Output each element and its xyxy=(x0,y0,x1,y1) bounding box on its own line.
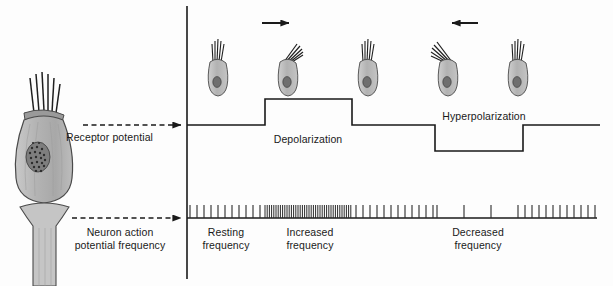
receptor-potential-trace xyxy=(187,99,600,151)
stereocilia xyxy=(362,39,374,62)
nucleus xyxy=(443,77,451,88)
afferent-fiber xyxy=(20,203,69,286)
increased-frequency-label-line1: Increased xyxy=(286,226,333,238)
resting-frequency-label-line1: Resting xyxy=(208,226,244,238)
resting-frequency-label-line2: frequency xyxy=(202,239,249,251)
hyperpolarization-label: Hyperpolarization xyxy=(442,110,525,122)
hair-cell-icon-4 xyxy=(431,42,458,96)
decreased-frequency-label-line2: frequency xyxy=(454,239,501,251)
increased-frequency-label-line2: frequency xyxy=(286,239,333,251)
hair-cell-icon-3 xyxy=(358,39,378,96)
nucleus xyxy=(513,77,521,88)
nucleus xyxy=(283,77,291,88)
hair-cell-icon-5 xyxy=(508,39,528,96)
neuron-action-label-line1: Neuron action xyxy=(87,226,154,238)
stereocilia xyxy=(512,39,524,62)
stereocilia-bundle xyxy=(30,72,60,113)
decreased-frequency-label-line1: Decreased xyxy=(452,226,504,238)
spike-train xyxy=(190,205,595,218)
neuron-action-label-line2: potential frequency xyxy=(75,239,166,251)
figure-canvas: Receptor potential Neuron action potenti… xyxy=(0,0,613,286)
nucleus xyxy=(363,77,371,88)
receptor-potential-label: Receptor potential xyxy=(66,131,153,143)
nucleus xyxy=(213,77,221,88)
stereocilia xyxy=(212,39,224,62)
depolarization-label: Depolarization xyxy=(274,133,343,145)
hair-cell-icon-2 xyxy=(278,44,303,96)
hair-cell-icon-1 xyxy=(208,39,228,96)
sensory-neuron-icon xyxy=(15,72,72,286)
